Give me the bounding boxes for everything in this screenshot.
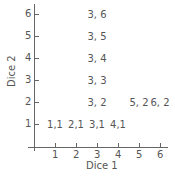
x-tick-mark: [139, 143, 140, 148]
y-tick-mark: [34, 124, 39, 125]
y-tick-label: 4: [25, 53, 31, 63]
x-tick-mark: [160, 143, 161, 148]
point-label: 4,1: [110, 120, 126, 130]
x-tick-label: 1: [52, 150, 58, 160]
point-label: 3, 4: [87, 54, 106, 64]
point-label: 5, 2: [129, 98, 148, 108]
point-label: 3, 2: [87, 98, 106, 108]
y-tick-mark: [34, 36, 39, 37]
point-label: 2,1: [68, 120, 84, 130]
x-tick-mark: [55, 143, 56, 148]
y-tick-label: 5: [25, 31, 31, 41]
x-tick-mark: [97, 143, 98, 148]
y-tick-label: 6: [25, 9, 31, 19]
x-tick-label: 3: [94, 150, 100, 160]
x-tick-label: 2: [73, 150, 79, 160]
y-tick-label: 1: [25, 119, 31, 129]
x-tick-mark: [76, 143, 77, 148]
x-tick-mark: [118, 143, 119, 148]
point-label: 3, 3: [87, 76, 106, 86]
x-tick-label: 6: [157, 150, 163, 160]
y-tick-mark: [34, 80, 39, 81]
x-axis-title: Dice 1: [86, 161, 118, 171]
x-tick-label: 4: [115, 150, 121, 160]
point-label: 3, 5: [87, 32, 106, 42]
point-label: 1,1: [47, 120, 63, 130]
x-tick-label: 5: [136, 150, 142, 160]
x-axis-line: [28, 147, 168, 148]
point-label: 3, 6: [87, 10, 106, 20]
y-tick-label: 3: [25, 75, 31, 85]
y-tick-mark: [34, 58, 39, 59]
point-label: 6, 2: [150, 98, 169, 108]
scatter-chart: 123456 123456 1,12,13,14,13, 25, 26, 23,…: [0, 0, 175, 178]
point-label: 3,1: [89, 120, 105, 130]
y-tick-mark: [34, 102, 39, 103]
y-tick-mark: [34, 14, 39, 15]
y-axis-title: Dice 2: [7, 57, 17, 87]
y-axis-line: [34, 4, 35, 151]
y-tick-label: 2: [25, 97, 31, 107]
